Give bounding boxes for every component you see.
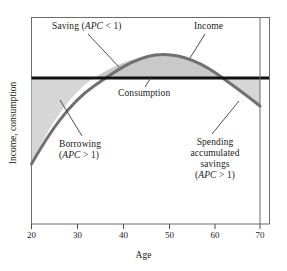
- annotation-spending-apc: (APC > 1): [195, 170, 235, 180]
- annotation-borrowing: Borrowing (APC > 1): [59, 139, 101, 161]
- x-axis-ticks: [32, 224, 261, 229]
- x-tick-label-40: 40: [109, 230, 139, 240]
- annotation-income: Income: [194, 21, 223, 32]
- annotation-spending-line3: savings: [200, 159, 229, 169]
- x-tick-label-50: 50: [155, 230, 185, 240]
- annotation-saving: Saving (APC < 1): [52, 21, 122, 32]
- x-tick-label-30: 30: [63, 230, 93, 240]
- income-consumption-life-cycle-chart: Saving (APC < 1) Income Consumption Borr…: [0, 0, 287, 271]
- y-axis-title: Income, consumption: [8, 43, 18, 203]
- x-axis-title: Age: [0, 250, 287, 260]
- x-tick-label-20: 20: [17, 230, 47, 240]
- annotation-spending-line2: accumulated: [190, 148, 239, 158]
- annotation-borrowing-apc: (APC > 1): [59, 150, 99, 160]
- annotation-spending-line1: Spending: [197, 137, 234, 147]
- plot-frame: [32, 18, 270, 225]
- x-tick-label-70: 70: [245, 230, 275, 240]
- annotation-spending-accumulated-savings: Spending accumulated savings (APC > 1): [175, 137, 255, 181]
- annotation-consumption: Consumption: [118, 88, 170, 99]
- annotation-borrowing-line1: Borrowing: [59, 139, 101, 149]
- x-tick-label-60: 60: [200, 230, 230, 240]
